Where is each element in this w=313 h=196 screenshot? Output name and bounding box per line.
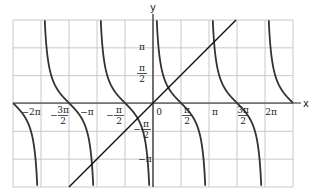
- x-tick-label: −π2: [106, 105, 124, 126]
- origin-label: 0: [156, 107, 162, 117]
- svg-text:2: 2: [240, 116, 246, 126]
- y-tick-label: π: [139, 42, 145, 52]
- svg-text:π: π: [184, 105, 190, 115]
- svg-text:2: 2: [60, 116, 66, 126]
- x-tick-label: 3π2: [237, 105, 249, 126]
- x-axis-label: x: [303, 98, 309, 109]
- cotangent-chart: xy −2π−3π2−π−π2π2π3π22π0ππ2−π2−π: [0, 0, 313, 196]
- svg-text:2: 2: [139, 74, 145, 84]
- y-tick-label: −π: [138, 154, 152, 164]
- svg-text:−: −: [133, 124, 141, 134]
- svg-text:π: π: [116, 105, 122, 115]
- y-tick-label: −π2: [133, 119, 151, 140]
- svg-text:π: π: [143, 119, 149, 129]
- svg-text:2: 2: [143, 130, 149, 140]
- svg-text:3π: 3π: [237, 105, 249, 115]
- x-tick-label: −2π: [21, 107, 40, 117]
- cot-branch: [269, 20, 293, 103]
- x-tick-label: 2π: [265, 107, 277, 117]
- svg-text:−: −: [106, 110, 114, 120]
- svg-text:2: 2: [184, 116, 190, 126]
- x-tick-label: π: [212, 107, 218, 117]
- svg-text:3π: 3π: [57, 105, 69, 115]
- x-tick-label: π2: [182, 105, 192, 126]
- y-axis-label: y: [150, 2, 156, 13]
- y-tick-label: π2: [137, 63, 147, 84]
- x-tick-label: −3π2: [50, 105, 69, 126]
- svg-text:π: π: [139, 63, 145, 73]
- x-tick-label: −π: [80, 107, 94, 117]
- svg-text:2: 2: [116, 116, 122, 126]
